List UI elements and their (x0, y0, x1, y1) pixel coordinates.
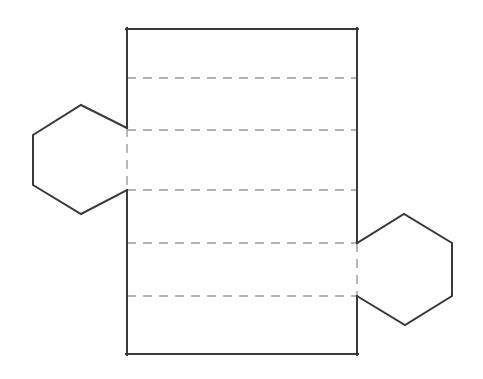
diagram-canvas: Net of a hexagonal prism Geometric net d… (0, 0, 483, 379)
right-hexagon-fill (357, 214, 452, 325)
hexagonal-prism-net-figure (0, 0, 483, 379)
